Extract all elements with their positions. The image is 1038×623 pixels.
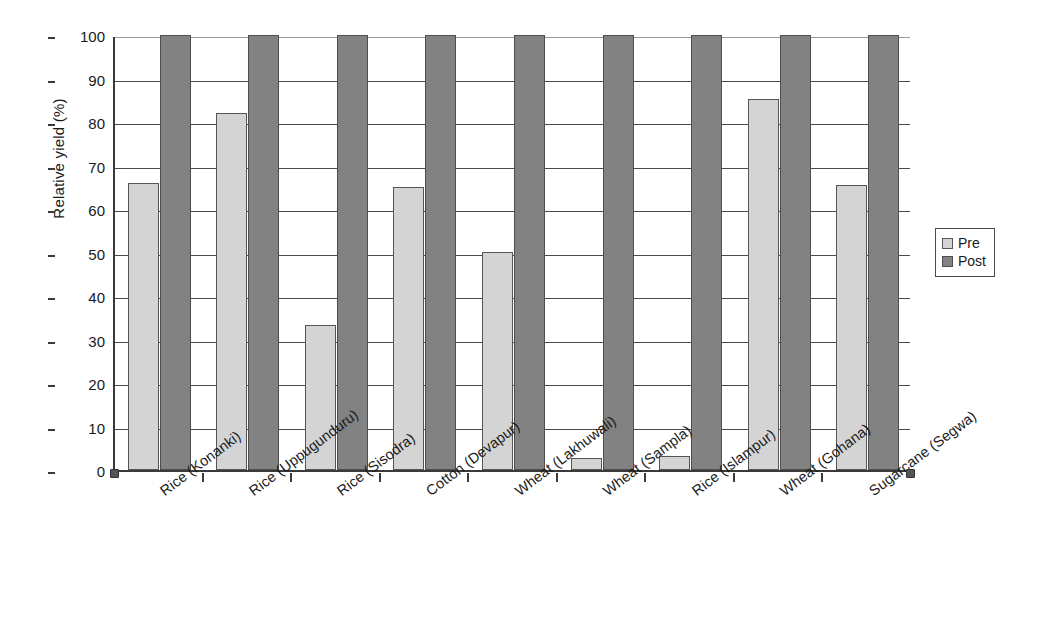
y-axis-tick	[48, 342, 55, 344]
bar-post-4	[514, 35, 545, 470]
y-axis-tick	[48, 168, 55, 170]
bar-post-8	[868, 35, 899, 470]
bar-post-2	[337, 35, 368, 470]
y-axis-tick	[48, 298, 55, 300]
y-axis-tick	[48, 37, 55, 39]
y-axis-tick-label: 90	[59, 73, 105, 88]
y-axis-tick-label: 60	[59, 203, 105, 218]
legend-item-post[interactable]: Post	[942, 252, 986, 270]
legend-swatch-post-icon	[942, 256, 953, 267]
bar-post-6	[691, 35, 722, 470]
y-axis-tick-label: 100	[59, 29, 105, 44]
legend-swatch-pre-icon	[942, 238, 953, 249]
bar-post-7	[780, 35, 811, 470]
y-axis-tick-label: 20	[59, 377, 105, 392]
axis-end-marker	[906, 469, 915, 478]
y-axis-tick	[48, 81, 55, 83]
y-axis-tick-label: 80	[59, 116, 105, 131]
y-axis-tick	[48, 211, 55, 213]
bar-chart: Relative yield (%) 010203040506070809010…	[0, 0, 1038, 623]
y-axis-tick-labels: 0102030405060708090100	[55, 37, 105, 472]
plot-area	[113, 37, 910, 472]
legend-label-post: Post	[958, 254, 986, 268]
y-axis-tick	[48, 429, 55, 431]
bar-post-1	[248, 35, 279, 470]
y-axis-tick	[48, 385, 55, 387]
y-axis-tick-label: 50	[59, 247, 105, 262]
bar-pre-5	[571, 458, 602, 470]
y-axis-tick-label: 10	[59, 421, 105, 436]
y-axis-tick-label: 40	[59, 290, 105, 305]
bar-pre-1	[216, 113, 247, 470]
bar-pre-3	[393, 187, 424, 470]
legend-item-pre[interactable]: Pre	[942, 234, 986, 252]
y-axis-tick	[48, 255, 55, 257]
y-axis-tick-label: 30	[59, 334, 105, 349]
bar-pre-7	[748, 99, 779, 470]
y-axis-tick	[48, 124, 55, 126]
bar-pre-0	[128, 183, 159, 470]
bar-post-5	[603, 35, 634, 470]
bar-pre-6	[659, 456, 690, 470]
y-axis-tick-label: 70	[59, 160, 105, 175]
legend-label-pre: Pre	[958, 236, 980, 250]
x-axis-category-labels: Rice (Konanki)Rice (Uppugunduru)Rice (Si…	[0, 472, 1038, 622]
bar-post-3	[425, 35, 456, 470]
chart-legend: Pre Post	[935, 228, 995, 277]
axis-origin-marker	[110, 469, 119, 478]
bar-post-0	[160, 35, 191, 470]
